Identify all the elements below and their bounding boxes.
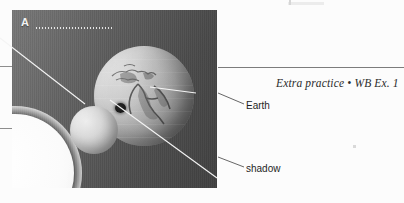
scan-artifact-top <box>288 2 324 5</box>
caption-separator-rule <box>218 67 404 68</box>
scan-artifact-right-dot <box>353 145 356 148</box>
item-letter: A <box>21 16 29 28</box>
extra-practice-caption: Extra practice • WB Ex. 1 <box>276 77 399 89</box>
dotted-answer-line <box>35 27 113 29</box>
annotation-label-earth: Earth <box>246 100 270 111</box>
sun-glow <box>12 106 82 188</box>
scan-artifact-top-tick <box>289 0 291 5</box>
moon-sphere <box>70 106 118 154</box>
annotation-label-shadow: shadow <box>246 163 280 174</box>
umbra-shadow-spot <box>115 103 126 113</box>
eclipse-figure-panel: A <box>12 10 217 188</box>
